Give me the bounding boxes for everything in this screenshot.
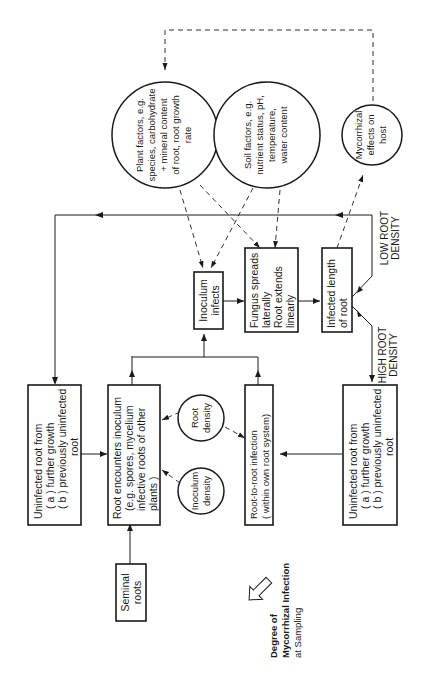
title-line-2: Mycorrhizal Infection <box>280 563 291 658</box>
root-to-root-line-2: ( within own root system) <box>260 414 271 519</box>
uninfected-bottom-line-1: Uninfected root from <box>347 424 359 519</box>
soil-factors-line-1: Soil factors, e.g. <box>242 101 253 169</box>
low-label-line-2: DENSITY <box>390 216 401 260</box>
node-uninfected-root-bottom: Uninfected root from ( a ) further growt… <box>343 385 397 525</box>
effects-line-2: effects on <box>365 114 376 155</box>
inoculum-density-line-1: Inoculum <box>189 472 200 511</box>
uninfected-bottom-line-4: root <box>383 438 395 456</box>
uninfected-top-line-4: root <box>68 438 80 456</box>
node-seminal-roots: Seminal roots <box>116 564 146 621</box>
high-label-line-1: HIGH ROOT <box>377 327 388 384</box>
effects-line-1: Mycorrhizal <box>353 111 364 160</box>
hollow-arrow-icon <box>243 574 276 607</box>
mycorrhizal-infection-flow-diagram: Plant factors, e.g. species, carbohydrat… <box>0 0 428 684</box>
high-root-density-label: HIGH ROOT DENSITY <box>377 327 399 384</box>
dash-plant-to-spreads <box>200 185 260 248</box>
encounters-line-4: plants ) <box>147 477 159 511</box>
title-line-1: Degree of <box>268 613 279 658</box>
seminal-line-2: roots <box>131 581 143 604</box>
plant-factors-line-5: rate <box>182 127 193 143</box>
spreads-line-2: laterally <box>260 291 272 328</box>
soil-factors-line-2: nutrient status, pH, <box>254 95 265 175</box>
soil-factors-line-3: temperature, <box>266 108 277 162</box>
low-label-line-1: LOW ROOT <box>379 211 390 265</box>
arrow-high-root-density <box>352 306 372 382</box>
root-to-root-line-1: Root-to-root infection <box>248 430 259 519</box>
infected-length-line-2: of root <box>337 298 349 328</box>
dash-plant-to-infects <box>180 190 203 268</box>
node-fungus-spreads: Fungus spreads laterally Root extends li… <box>245 248 298 332</box>
infects-line-1: Inoculum <box>197 279 209 322</box>
inoculum-density-line-2: density <box>201 476 212 506</box>
soil-factors-line-4: water content <box>278 106 289 164</box>
node-uninfected-root-top: Uninfected root from ( a ) further growt… <box>28 385 81 525</box>
spreads-line-4: linearly <box>284 294 296 328</box>
uninfected-top-line-2: ( a ) further growth <box>44 422 56 509</box>
infected-length-line-1: Infected length <box>325 259 337 328</box>
plant-factors-line-1: Plant factors, e.g. <box>134 98 145 172</box>
node-root-density: Root density <box>178 395 224 441</box>
encounters-line-2: (e.g. spores, mycelium <box>123 405 135 511</box>
node-inoculum-density: Inoculum density <box>178 468 224 514</box>
plant-factors-line-4: of root, root growth <box>170 95 181 175</box>
dash-infected-to-effects <box>337 175 363 248</box>
node-inoculum-infects: Inoculum infects <box>194 272 223 329</box>
dash-inoculum-density-to-encounters <box>162 470 180 483</box>
title-line-3: at Sampling <box>292 608 303 658</box>
encounters-line-3: infective roots of other <box>135 407 147 511</box>
low-root-density-label: LOW ROOT DENSITY <box>379 211 401 265</box>
uninfected-bottom-line-2: ( a ) further growth <box>359 422 371 509</box>
node-infected-length: Infected length of root <box>322 248 352 332</box>
node-mycorrhizal-effects: Mycorrhizal effects on host <box>342 105 402 165</box>
uninfected-top-line-1: Uninfected root from <box>32 424 44 519</box>
effects-line-3: host <box>377 126 388 144</box>
infects-line-2: infects <box>209 285 221 315</box>
degree-of-infection-label: Degree of Mycorrhizal Infection at Sampl… <box>268 563 303 658</box>
encounters-line-1: Root encounters inoculum <box>111 397 123 519</box>
high-label-line-2: DENSITY <box>388 333 399 377</box>
dash-soil-to-spreads <box>275 190 280 248</box>
dash-root-density-to-root-to-root <box>225 427 245 438</box>
node-root-encounters-inoculum: Root encounters inoculum (e.g. spores, m… <box>108 385 160 525</box>
seminal-line-1: Seminal <box>119 574 131 612</box>
plant-factors-line-3: + mineral content <box>158 98 169 171</box>
uninfected-bottom-line-3: ( b ) previously uninfected <box>371 389 383 509</box>
node-soil-factors: Soil factors, e.g. nutrient status, pH, … <box>214 82 320 188</box>
plant-factors-line-2: species, carbohydrate <box>146 89 157 182</box>
root-density-line-2: density <box>201 403 212 433</box>
spreads-line-1: Fungus spreads <box>248 253 260 328</box>
uninfected-top-line-3: ( b ) previously uninfected <box>56 389 68 509</box>
node-root-to-root-infection: Root-to-root infection ( within own root… <box>245 385 273 525</box>
root-density-line-1: Root <box>189 408 200 428</box>
spreads-line-3: Root extends <box>272 266 284 328</box>
node-plant-factors: Plant factors, e.g. species, carbohydrat… <box>112 82 218 188</box>
